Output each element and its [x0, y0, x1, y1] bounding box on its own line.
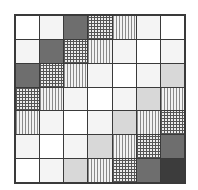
matrix-cell-r4-c0 — [16, 111, 39, 134]
matrix-cell-r5-c6 — [161, 135, 184, 158]
matrix-cell-r5-c1 — [40, 135, 63, 158]
matrix-cell-r4-c1 — [40, 111, 63, 134]
matrix-cell-r5-c0 — [16, 135, 39, 158]
matrix-cell-r3-c5 — [137, 88, 160, 111]
matrix-cell-r1-c6 — [161, 40, 184, 63]
matrix-cell-r5-c5 — [137, 135, 160, 158]
matrix-cell-r2-c3 — [88, 64, 111, 87]
matrix-cell-r2-c0 — [16, 64, 39, 87]
matrix-cell-r4-c3 — [88, 111, 111, 134]
matrix-cell-r0-c0 — [16, 16, 39, 39]
matrix-cell-r4-c4 — [113, 111, 136, 134]
matrix-cell-r4-c5 — [137, 111, 160, 134]
matrix-cell-r1-c0 — [16, 40, 39, 63]
matrix-cell-r5-c2 — [64, 135, 87, 158]
matrix-cell-r6-c2 — [64, 159, 87, 182]
matrix-cell-r0-c4 — [113, 16, 136, 39]
matrix-cell-r2-c6 — [161, 64, 184, 87]
matrix-cell-r6-c4 — [113, 159, 136, 182]
matrix-cell-r3-c4 — [113, 88, 136, 111]
matrix-cell-r5-c4 — [113, 135, 136, 158]
matrix-cell-r0-c3 — [88, 16, 111, 39]
matrix-cell-r3-c6 — [161, 88, 184, 111]
matrix-cell-r3-c1 — [40, 88, 63, 111]
matrix-cell-r6-c0 — [16, 159, 39, 182]
matrix-cell-r1-c5 — [137, 40, 160, 63]
matrix-cell-r3-c2 — [64, 88, 87, 111]
matrix-cell-r1-c4 — [113, 40, 136, 63]
pattern-matrix — [14, 14, 186, 184]
matrix-cell-r0-c5 — [137, 16, 160, 39]
matrix-cell-r1-c1 — [40, 40, 63, 63]
matrix-cell-r1-c3 — [88, 40, 111, 63]
matrix-cell-r3-c3 — [88, 88, 111, 111]
matrix-cell-r0-c6 — [161, 16, 184, 39]
matrix-cell-r2-c2 — [64, 64, 87, 87]
matrix-cell-r0-c1 — [40, 16, 63, 39]
matrix-cell-r5-c3 — [88, 135, 111, 158]
matrix-cell-r1-c2 — [64, 40, 87, 63]
matrix-cell-r4-c6 — [161, 111, 184, 134]
matrix-cell-r3-c0 — [16, 88, 39, 111]
matrix-cell-r6-c6 — [161, 159, 184, 182]
matrix-cell-r2-c4 — [113, 64, 136, 87]
matrix-cell-r2-c5 — [137, 64, 160, 87]
matrix-cell-r2-c1 — [40, 64, 63, 87]
matrix-cell-r4-c2 — [64, 111, 87, 134]
matrix-cell-r6-c1 — [40, 159, 63, 182]
matrix-cell-r6-c3 — [88, 159, 111, 182]
matrix-cell-r6-c5 — [137, 159, 160, 182]
matrix-cell-r0-c2 — [64, 16, 87, 39]
